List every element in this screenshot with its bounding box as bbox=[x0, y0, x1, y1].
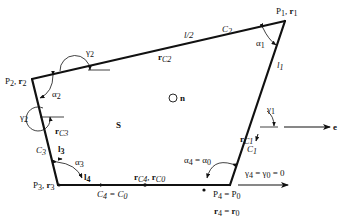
label-rc3: rC3 bbox=[55, 126, 68, 138]
label-alpha4-eq-alpha0: α4 = α0 bbox=[184, 155, 211, 167]
label-alpha2: α2 bbox=[52, 89, 61, 101]
label-normal-n: n bbox=[180, 93, 185, 103]
label-c3: C3 bbox=[36, 145, 46, 157]
label-gamma2-side: γ2 bbox=[19, 112, 28, 124]
label-gamma2-top: γ2 bbox=[85, 47, 94, 59]
l1-tangent-icon bbox=[256, 134, 258, 141]
label-l3: l3 bbox=[58, 144, 65, 156]
label-p2: P2, r2 bbox=[5, 76, 27, 88]
label-p4-eq-p0: P4 = P0 bbox=[213, 189, 241, 201]
label-alpha3: α3 bbox=[75, 157, 84, 169]
label-region-s: S bbox=[116, 120, 121, 130]
p3-point-icon bbox=[57, 183, 60, 186]
label-direction-e: e bbox=[333, 122, 337, 132]
label-rc4-rc0: rC4, rC0 bbox=[134, 172, 165, 184]
p0-offset-point-icon bbox=[202, 188, 205, 191]
label-r4-eq-r0: r4 = r0 bbox=[214, 206, 240, 218]
label-alpha1: α1 bbox=[256, 38, 265, 50]
normal-n-icon bbox=[169, 94, 177, 102]
label-l1: l1 bbox=[277, 60, 284, 72]
label-half-l: l/2 bbox=[184, 30, 194, 40]
label-l4: l4 bbox=[84, 172, 91, 184]
polygon-boundary-diagram: P1, r1 P2, r2 P3, r3 P4 = P0 r4 = r0 C2 … bbox=[0, 0, 339, 222]
gamma2-side-arc-icon bbox=[26, 107, 50, 131]
label-rc2: rC2 bbox=[158, 52, 171, 64]
alpha1-arc-icon bbox=[263, 28, 276, 45]
edge-c2 bbox=[32, 21, 285, 79]
label-gamma1: γ1 bbox=[266, 104, 275, 116]
label-gamma4-eq-gamma0: γ4 = γ0 = 0 bbox=[244, 168, 285, 180]
label-p1: P1, r1 bbox=[276, 6, 298, 18]
label-p3: P3, r3 bbox=[33, 180, 55, 192]
polygon-edges bbox=[32, 21, 285, 185]
label-c4-eq-c0: C4 = C0 bbox=[97, 189, 128, 201]
